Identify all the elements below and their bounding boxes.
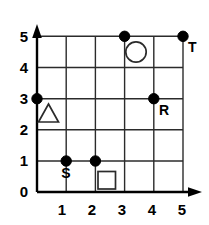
circle-shape-icon xyxy=(126,42,146,62)
y-tick-2: 2 xyxy=(20,121,28,138)
x-tick-4: 4 xyxy=(148,201,157,218)
x-axis-tick-labels: 1 2 3 4 5 xyxy=(58,201,186,218)
y-axis-tick-labels: 5 4 3 2 1 0 xyxy=(20,28,29,200)
point-2-1 xyxy=(90,156,100,166)
point-3-5 xyxy=(119,31,129,41)
y-tick-4: 4 xyxy=(20,59,29,76)
coordinate-plane-svg: 5 4 3 2 1 0 1 2 3 4 5 xyxy=(0,0,209,225)
y-tick-0: 0 xyxy=(20,183,28,200)
label-t: T xyxy=(188,39,197,55)
point-0-3 xyxy=(32,94,42,104)
x-tick-3: 3 xyxy=(118,201,126,218)
cell-shapes xyxy=(39,42,147,189)
x-tick-1: 1 xyxy=(58,201,66,218)
x-axis-arrow-icon xyxy=(188,187,202,197)
square-shape-icon xyxy=(98,172,116,190)
label-s: S xyxy=(61,165,70,181)
triangle-shape-icon xyxy=(39,104,59,122)
y-tick-3: 3 xyxy=(20,90,28,107)
label-r: R xyxy=(159,102,169,118)
point-r xyxy=(149,94,159,104)
axes xyxy=(32,24,202,197)
y-tick-1: 1 xyxy=(20,152,28,169)
x-tick-2: 2 xyxy=(88,201,96,218)
y-axis-arrow-icon xyxy=(32,24,42,38)
point-t xyxy=(178,31,188,41)
coordinate-grid-figure: 5 4 3 2 1 0 1 2 3 4 5 xyxy=(0,0,209,225)
x-tick-5: 5 xyxy=(178,201,186,218)
y-tick-5: 5 xyxy=(20,28,28,45)
